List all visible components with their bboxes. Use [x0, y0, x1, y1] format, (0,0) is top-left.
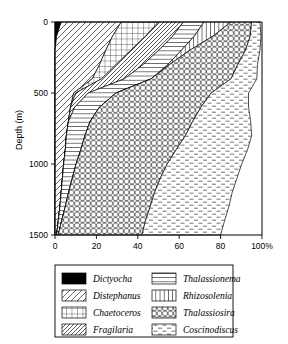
y-axis-ticks: 050010001500: [29, 17, 55, 240]
legend-swatch-chaetoceros: [62, 307, 86, 318]
legend-label-chaetoceros: Chaetoceros: [93, 308, 141, 318]
y-tick-label: 500: [34, 88, 48, 98]
x-tick-label: 100%: [251, 241, 273, 251]
y-tick-label: 1500: [29, 230, 48, 240]
legend-label-distephanus: Distephanus: [92, 291, 141, 301]
legend-label-coscinodiscus: Coscinodiscus: [183, 325, 238, 335]
y-axis-label: Depth (m): [14, 110, 24, 150]
legend-label-rhizosolenia: Rhizosolenia: [182, 291, 232, 301]
x-axis-ticks: 020406080100%: [53, 235, 274, 251]
legend-label-thalassionema: Thalassionema: [183, 274, 241, 284]
y-tick-label: 0: [43, 17, 48, 27]
diatom-depth-stacked-area-chart: 020406080100% 050010001500 Depth (m) Dic…: [0, 0, 288, 344]
legend-label-thalassiosira: Thalassiosira: [183, 308, 235, 318]
legend-swatch-thalassiosira: [152, 307, 176, 318]
chart-figure: 020406080100% 050010001500 Depth (m) Dic…: [0, 0, 288, 344]
plot-area: 020406080100% 050010001500: [29, 17, 273, 251]
legend: DictyochaDistephanusChaetocerosFragilari…: [55, 265, 241, 337]
legend-swatch-rhizosolenia: [152, 290, 176, 301]
x-tick-label: 60: [174, 241, 184, 251]
legend-swatch-fragilaria: [62, 324, 86, 335]
x-tick-label: 40: [133, 241, 143, 251]
legend-swatch-coscinodiscus: [152, 324, 176, 335]
legend-swatch-thalassionema: [152, 273, 176, 284]
y-tick-label: 1000: [29, 159, 48, 169]
legend-swatch-dictyocha: [62, 273, 86, 284]
x-tick-label: 20: [92, 241, 102, 251]
x-tick-label: 0: [53, 241, 58, 251]
legend-label-dictyocha: Dictyocha: [92, 274, 132, 284]
x-tick-label: 80: [216, 241, 226, 251]
legend-label-fragilaria: Fragilaria: [92, 325, 133, 335]
legend-swatch-distephanus: [62, 290, 86, 301]
